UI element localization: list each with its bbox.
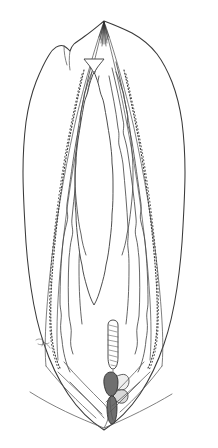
basal-capsule — [108, 320, 118, 369]
scientific-illustration — [0, 0, 218, 448]
figure-root — [0, 0, 218, 448]
